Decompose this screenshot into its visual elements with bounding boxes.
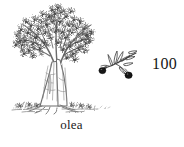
olive-branch-svg <box>96 48 142 82</box>
olive-branch-detail <box>96 48 142 82</box>
species-caption: olea <box>0 117 143 132</box>
illustration-page: olea 100 <box>0 0 184 147</box>
olive-fruit <box>125 72 132 78</box>
branch-stem <box>102 53 136 69</box>
olive-fruit <box>99 68 106 74</box>
plate-number: 100 <box>152 55 177 72</box>
